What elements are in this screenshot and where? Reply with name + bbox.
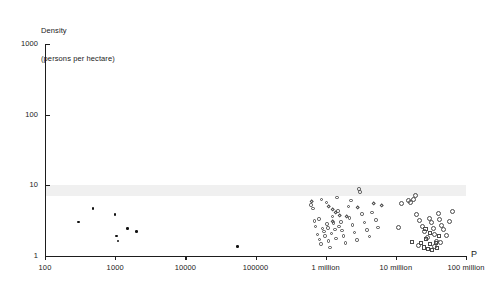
highlight-band <box>45 185 466 196</box>
data-point <box>77 221 80 224</box>
data-point <box>328 246 331 249</box>
data-point <box>325 222 328 225</box>
data-point <box>417 218 422 223</box>
data-point <box>428 242 432 246</box>
x-tick-5 <box>396 256 397 260</box>
data-point <box>322 230 325 233</box>
data-point <box>434 241 438 245</box>
data-point <box>318 238 321 241</box>
y-tick-label-1: 1 <box>4 251 38 260</box>
data-point <box>344 241 347 244</box>
data-point <box>126 227 129 230</box>
data-point <box>447 219 452 224</box>
x-tick-label-3: 100000 <box>243 263 269 272</box>
data-point <box>356 206 361 211</box>
data-point <box>338 213 343 218</box>
data-point <box>347 205 350 208</box>
data-point <box>437 234 441 238</box>
data-point <box>437 217 442 222</box>
data-point <box>430 248 434 252</box>
data-point <box>310 199 315 204</box>
data-point <box>349 199 352 202</box>
data-point <box>314 225 317 228</box>
x-tick-1 <box>115 256 116 260</box>
y-tick-100 <box>45 115 50 116</box>
x-axis-title: P <box>471 249 477 259</box>
data-point <box>323 234 326 237</box>
y-tick-label-100: 100 <box>4 110 38 119</box>
data-point <box>334 237 337 240</box>
data-point <box>429 220 434 225</box>
data-point <box>374 218 377 221</box>
data-point <box>435 246 439 250</box>
data-point <box>399 201 404 206</box>
data-point <box>370 211 373 214</box>
data-point <box>355 238 358 241</box>
data-point <box>441 227 446 232</box>
data-point <box>410 240 414 244</box>
x-tick-label-0: 100 <box>39 263 52 272</box>
data-point <box>450 209 455 214</box>
data-point <box>414 212 419 217</box>
x-tick-2 <box>185 256 186 260</box>
x-tick-label-6: 100 million <box>448 263 485 272</box>
data-point <box>337 225 340 228</box>
data-point <box>379 203 384 208</box>
data-point <box>358 190 361 193</box>
data-point <box>424 237 428 241</box>
x-tick-6 <box>466 256 467 260</box>
y-axis-title-line2: (persons per hectare) <box>41 54 115 63</box>
data-point <box>331 215 334 218</box>
data-point <box>396 225 401 230</box>
y-tick-10 <box>45 185 50 186</box>
data-point <box>372 201 377 206</box>
x-tick-3 <box>256 256 257 260</box>
x-tick-label-5: 10 million <box>379 263 412 272</box>
data-point <box>438 240 443 245</box>
data-point <box>311 207 314 210</box>
y-tick-label-1000: 1000 <box>4 39 38 48</box>
y-tick-1000 <box>45 44 50 45</box>
data-point <box>423 227 427 231</box>
data-point <box>313 219 316 222</box>
y-axis-line <box>45 44 46 256</box>
data-point <box>351 223 354 226</box>
data-point <box>114 213 117 216</box>
data-point <box>368 235 371 238</box>
y-tick-label-10: 10 <box>4 180 38 189</box>
data-point <box>363 221 366 224</box>
data-point <box>436 211 441 216</box>
x-tick-4 <box>326 256 327 260</box>
data-point <box>236 245 239 248</box>
data-point <box>428 231 432 235</box>
data-point <box>444 233 449 238</box>
x-tick-label-1: 1000 <box>107 263 124 272</box>
data-point <box>339 220 342 223</box>
data-point <box>320 198 323 201</box>
data-point <box>326 226 329 229</box>
data-point <box>335 196 338 199</box>
data-point <box>135 230 138 233</box>
x-tick-label-4: 1 million <box>311 263 339 272</box>
data-point <box>353 231 356 234</box>
data-point <box>360 212 363 215</box>
y-axis-title-line1: Density <box>41 26 115 35</box>
data-point <box>317 217 320 220</box>
data-point <box>316 233 319 236</box>
data-point <box>92 207 95 210</box>
data-point <box>330 232 333 235</box>
data-point <box>340 229 343 232</box>
data-point <box>117 240 120 243</box>
y-axis-title: Density (persons per hectare) <box>41 8 115 82</box>
data-point <box>342 234 345 237</box>
data-point <box>376 226 379 229</box>
x-tick-0 <box>45 256 46 260</box>
data-point <box>327 239 330 242</box>
scatter-chart: Density (persons per hectare) 1101001000… <box>0 0 489 294</box>
data-point <box>413 193 418 198</box>
data-point <box>333 228 336 231</box>
data-point <box>115 235 118 238</box>
data-point <box>365 228 368 231</box>
x-tick-label-2: 10000 <box>175 263 196 272</box>
data-point <box>319 242 322 245</box>
